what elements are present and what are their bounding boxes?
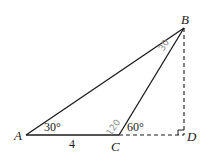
- right-angle-marker: [178, 130, 184, 135]
- handwritten-angle-abc: 30: [157, 38, 172, 53]
- point-label-b: B: [181, 12, 189, 27]
- segment-cb: [119, 28, 184, 135]
- side-length-ac: 4: [69, 137, 75, 151]
- angle-label-a: 30°: [44, 120, 61, 134]
- angle-label-bcd: 60°: [127, 120, 144, 134]
- triangle-diagram: A B C D 30° 4 60° 120 30: [0, 0, 211, 159]
- point-label-d: D: [186, 129, 197, 144]
- point-label-c: C: [111, 139, 120, 154]
- point-label-a: A: [13, 128, 22, 143]
